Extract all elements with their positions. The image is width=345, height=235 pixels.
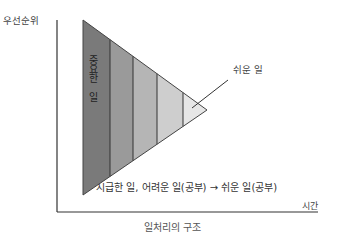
x-axis-label: 시간 (302, 199, 318, 212)
important-task-label: 중요한 일 (86, 55, 100, 101)
y-axis-label: 우선순위 (3, 13, 39, 27)
easy-pointer-line (192, 80, 228, 108)
segment-5 (183, 93, 207, 127)
segment-3 (133, 56, 157, 160)
diagram-canvas (0, 0, 345, 235)
easy-task-label: 쉬운 일 (233, 62, 263, 76)
diagram-title: 일처리의 구조 (0, 219, 345, 234)
diagram-caption: 시급한 일, 어려운 일(공부) → 쉬운 일(공부) (96, 179, 277, 194)
segment-4 (157, 74, 183, 145)
segment-2 (110, 40, 133, 177)
segment-1 (83, 20, 110, 195)
